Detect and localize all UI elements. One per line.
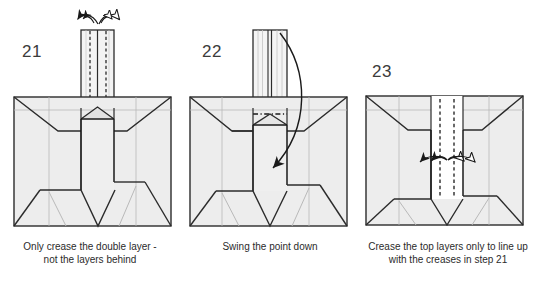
caption-line-2-21: not the layers behind	[0, 253, 180, 266]
figure-step-23	[358, 0, 539, 235]
caption-line-1-21: Only crease the double layer -	[0, 240, 180, 253]
body-23	[366, 96, 523, 225]
panel-step-22: 22	[180, 0, 360, 283]
panel-step-21: 21	[0, 0, 180, 283]
arrow-group-21	[78, 15, 120, 24]
caption-line-1-23: Crease the top layers only to line up	[358, 240, 538, 253]
caption-step-21: Only crease the double layer - not the l…	[0, 240, 180, 266]
panel-step-23: 23	[358, 0, 538, 283]
instruction-sheet: 21	[0, 0, 539, 283]
figure-step-21	[0, 0, 180, 235]
caption-step-23: Crease the top layers only to line up wi…	[358, 240, 538, 266]
caption-step-22: Swing the point down	[180, 240, 360, 253]
caption-line-1-22: Swing the point down	[180, 240, 360, 253]
caption-line-2-23: with the creases in step 21	[358, 253, 538, 266]
figure-step-22	[180, 0, 360, 235]
body-22	[190, 97, 347, 226]
centre-panel-white-23	[431, 96, 463, 199]
body-21	[14, 97, 171, 226]
